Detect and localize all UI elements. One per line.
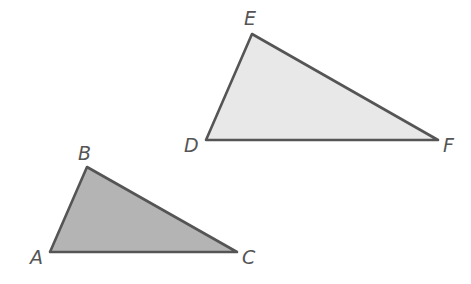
vertex-label-c: C [242, 246, 256, 268]
vertex-label-e: E [244, 7, 256, 29]
vertex-label-d: D [184, 134, 199, 156]
triangle-def [206, 34, 438, 140]
triangles-figure: E D F B A C [0, 0, 471, 284]
triangle-abc [50, 167, 237, 252]
vertex-label-b: B [78, 142, 91, 164]
vertex-label-f: F [443, 134, 455, 156]
diagram-canvas: E D F B A C [0, 0, 471, 284]
vertex-label-a: A [28, 246, 43, 268]
